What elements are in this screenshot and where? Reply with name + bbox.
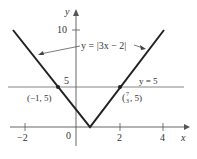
plot-area: y x 10 5 −2 0 2 4 y = |3x − 2| y = 5 (−1…: [0, 0, 197, 159]
tick-x-neg2: −2: [17, 132, 28, 143]
tick-x-2: 2: [117, 132, 122, 143]
point-neg1-5: [56, 85, 60, 89]
y5-label: y = 5: [139, 76, 158, 86]
point2-num: 7: [126, 91, 129, 97]
point2-den: 3: [126, 98, 129, 104]
point1-label: (−1, 5): [27, 93, 52, 103]
point-7-3-5: [118, 85, 122, 89]
point2-rest: , 5): [130, 93, 142, 103]
tick-y-5: 5: [64, 75, 69, 86]
chart: y x 10 5 −2 0 2 4 y = |3x − 2| y = 5 (−1…: [0, 0, 197, 159]
annotation-arrow-icon: [38, 51, 44, 55]
tick-x-0: 0: [66, 130, 71, 141]
tick-x-4: 4: [160, 132, 165, 143]
y-axis-label: y: [64, 6, 70, 17]
annotation-arrow-icon: [140, 45, 146, 50]
x-axis-arrow-icon: [184, 124, 190, 130]
tick-y-10: 10: [57, 24, 67, 35]
y-axis-arrow-icon: [73, 9, 79, 16]
x-axis-label: x: [180, 132, 186, 143]
abs-function-label: y = |3x − 2|: [81, 40, 126, 51]
